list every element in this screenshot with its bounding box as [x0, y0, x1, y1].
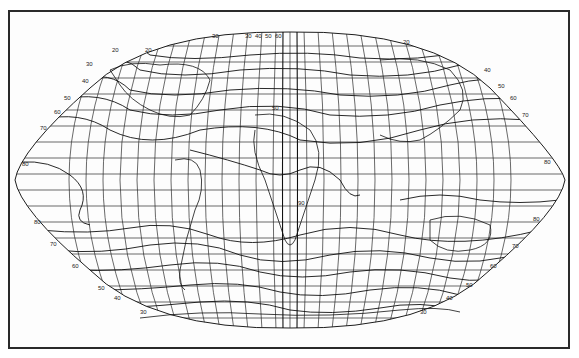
- label-eq-w-80: 80: [22, 161, 29, 167]
- label-ne-40: 40: [484, 67, 491, 73]
- label-se-70: 70: [512, 243, 519, 249]
- label-se-80: 80: [533, 216, 540, 222]
- world-isoline-map: 30 40 50 60 70 20 30 30 40 50 60 20 40 5…: [0, 0, 579, 358]
- label-top-30: 30: [212, 33, 219, 39]
- north-america-coast: [110, 63, 210, 116]
- label-se-40: 40: [446, 295, 453, 301]
- label-se-30: 30: [420, 309, 427, 315]
- label-top-20b: 20: [403, 39, 410, 45]
- label-africa-90: 90: [298, 200, 305, 206]
- label-nw-60: 60: [54, 109, 61, 115]
- label-greenland-20: 20: [112, 47, 119, 53]
- label-nw-70: 70: [40, 125, 47, 131]
- label-sw-60: 60: [72, 263, 79, 269]
- australia-coast: [430, 216, 491, 251]
- label-se-50: 50: [466, 282, 473, 288]
- coastlines: [110, 59, 491, 318]
- label-sw-70: 70: [50, 241, 57, 247]
- label-sw-80: 80: [34, 219, 41, 225]
- label-sw-40: 40: [114, 295, 121, 301]
- label-nw-40: 40: [82, 78, 89, 84]
- antarctica-coast: [140, 308, 460, 318]
- label-ne-60: 60: [510, 95, 517, 101]
- label-ne-80: 80: [544, 159, 551, 165]
- label-top-20: 20: [145, 47, 152, 53]
- label-nw-50: 50: [64, 95, 71, 101]
- label-sw-50: 50: [98, 285, 105, 291]
- label-top-30b: 30: [245, 33, 252, 39]
- label-sw-30: 30: [140, 309, 147, 315]
- label-ne-50: 50: [498, 83, 505, 89]
- label-ne-70: 70: [522, 112, 529, 118]
- graticule: [0, 30, 579, 330]
- label-mediterranean-50: 50: [272, 105, 279, 111]
- label-se-60: 60: [490, 263, 497, 269]
- label-top-60: 60: [275, 33, 282, 39]
- label-top-40: 40: [255, 33, 262, 39]
- africa-coast: [254, 114, 319, 245]
- label-nw-30: 30: [86, 61, 93, 67]
- label-top-50: 50: [265, 33, 272, 39]
